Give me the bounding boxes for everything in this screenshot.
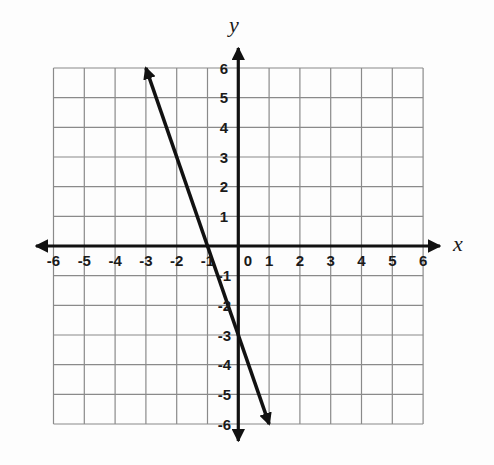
x-tick-label-pos1: 1 (265, 252, 273, 269)
coordinate-graph-svg: -6 -5 -4 -3 -2 -1 0 1 2 3 4 5 6 6 5 4 3 … (0, 0, 494, 465)
x-tick-label-neg2: -2 (170, 252, 183, 269)
x-axis-label: x (452, 231, 463, 256)
y-tick-label-neg6: -6 (218, 416, 231, 433)
y-tick-label-neg3: -3 (218, 327, 231, 344)
y-tick-label-pos6: 6 (220, 60, 228, 77)
y-tick-label-pos1: 1 (220, 208, 228, 225)
x-tick-label-neg1: -1 (201, 252, 214, 269)
x-tick-label-neg5: -5 (78, 252, 91, 269)
figure-background (0, 0, 494, 465)
coordinate-plane-figure: -6 -5 -4 -3 -2 -1 0 1 2 3 4 5 6 6 5 4 3 … (0, 0, 494, 465)
y-tick-label-neg2: -2 (218, 297, 231, 314)
x-tick-label-neg4: -4 (108, 252, 122, 269)
y-tick-label-pos4: 4 (220, 119, 229, 136)
x-tick-label-pos4: 4 (357, 252, 366, 269)
y-tick-label-neg4: -4 (218, 356, 232, 373)
y-tick-label-pos5: 5 (220, 89, 228, 106)
x-tick-label-neg3: -3 (139, 252, 152, 269)
x-tick-label-neg6: -6 (47, 252, 60, 269)
x-tick-label-pos5: 5 (388, 252, 396, 269)
x-tick-label-pos2: 2 (296, 252, 304, 269)
y-tick-label-pos3: 3 (220, 149, 228, 166)
y-axis-label: y (227, 12, 239, 37)
y-tick-label-neg1: -1 (218, 267, 231, 284)
x-tick-label-pos6: 6 (419, 252, 427, 269)
y-tick-label-neg5: -5 (218, 386, 231, 403)
x-tick-label-zero: 0 (244, 252, 252, 269)
x-tick-label-pos3: 3 (327, 252, 335, 269)
y-tick-label-pos2: 2 (220, 178, 228, 195)
